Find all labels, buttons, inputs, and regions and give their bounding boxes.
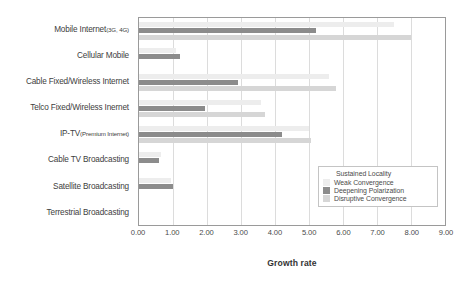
y-axis-category-label: Terrestrial Broadcasting: [47, 209, 129, 218]
x-axis-tick-label: 0.00: [131, 228, 145, 237]
y-axis-category-label: Mobile Internet(3G, 4G): [54, 26, 129, 35]
legend-title: Sustained Locality: [336, 170, 433, 177]
bar: [139, 80, 238, 85]
x-axis-tick-label: 5.00: [302, 228, 316, 237]
legend-entry[interactable]: Weak Convergence: [323, 179, 433, 186]
y-axis-category-label: IP-TV(Premium Internet): [60, 130, 129, 139]
y-axis-category-6: Satellite Broadcasting: [0, 174, 134, 200]
bar: [139, 86, 336, 91]
bar: [139, 48, 176, 53]
y-axis-category-label: Cellular Mobile: [77, 52, 129, 61]
x-axis-tick-label: 8.00: [405, 228, 419, 237]
y-axis-category-0: Mobile Internet(3G, 4G): [0, 17, 134, 43]
legend-entry[interactable]: Deepening Polarization: [323, 187, 433, 194]
x-axis-tick-label: 6.00: [336, 228, 350, 237]
legend-label: Weak Convergence: [334, 179, 394, 186]
bar: [139, 152, 161, 157]
x-axis-tick-label: 2.00: [199, 228, 213, 237]
y-axis-category-sublabel: (3G, 4G): [106, 26, 129, 33]
x-axis-tick-label: 7.00: [370, 228, 384, 237]
bar: [139, 138, 311, 143]
x-axis-tick-label: 4.00: [268, 228, 282, 237]
chart-legend: Sustained Locality Weak ConvergenceDeepe…: [318, 166, 438, 207]
y-axis-category-3: Telco Fixed/Wireless Inernet: [0, 95, 134, 121]
y-axis-category-2: Cable Fixed/Wireless Internet: [0, 69, 134, 95]
bar: [139, 184, 173, 189]
legend-swatch-icon: [323, 179, 330, 186]
bar-chart-figure: Mobile Internet(3G, 4G)Cellular MobileCa…: [0, 0, 456, 287]
bar-group: [139, 70, 445, 96]
bar: [139, 132, 282, 137]
bar: [139, 35, 411, 40]
y-axis-category-5: Cable TV Broadcasting: [0, 148, 134, 174]
x-axis-tick-label: 1.00: [165, 228, 179, 237]
x-axis-tick-labels: 0.001.002.003.004.005.006.007.008.009.00: [138, 228, 446, 242]
bar-group: [139, 44, 445, 70]
legend-entries: Weak ConvergenceDeepening PolarizationDi…: [323, 179, 433, 202]
y-axis-category-labels: Mobile Internet(3G, 4G)Cellular MobileCa…: [0, 17, 134, 226]
x-axis-title: Growth rate: [138, 258, 446, 268]
y-axis-category-label: Cable Fixed/Wireless Internet: [26, 78, 129, 87]
bar: [139, 178, 171, 183]
legend-label: Disruptive Convergence: [334, 195, 406, 202]
bar: [139, 100, 261, 105]
y-axis-category-1: Cellular Mobile: [0, 43, 134, 69]
legend-swatch-icon: [323, 195, 330, 202]
bar: [139, 74, 329, 79]
bar: [139, 126, 309, 131]
y-axis-category-label: Cable TV Broadcasting: [48, 156, 129, 165]
bar: [139, 54, 180, 59]
bar-group: [139, 96, 445, 122]
bar-group: [139, 18, 445, 44]
legend-entry[interactable]: Disruptive Convergence: [323, 195, 433, 202]
bar: [139, 28, 316, 33]
legend-swatch-icon: [323, 187, 330, 194]
bar: [139, 106, 205, 111]
y-axis-category-7: Terrestrial Broadcasting: [0, 200, 134, 226]
y-axis-category-label: Telco Fixed/Wireless Inernet: [30, 104, 129, 113]
bar: [139, 158, 159, 163]
x-axis-tick-label: 3.00: [233, 228, 247, 237]
y-axis-category-sublabel: (Premium Internet): [80, 130, 129, 137]
y-axis-category-label: Satellite Broadcasting: [53, 183, 129, 192]
x-axis-tick-label: 9.00: [439, 228, 453, 237]
legend-label: Deepening Polarization: [334, 187, 404, 194]
bar-group: [139, 122, 445, 148]
bar: [139, 22, 394, 27]
y-axis-category-4: IP-TV(Premium Internet): [0, 122, 134, 148]
bar: [139, 112, 265, 117]
